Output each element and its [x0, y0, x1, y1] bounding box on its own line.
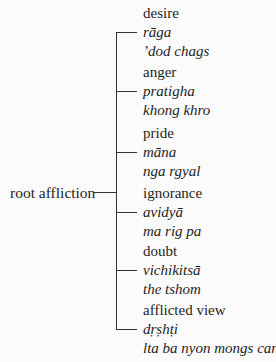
english-term: afflicted view [143, 301, 276, 320]
sanskrit-term: māna [143, 143, 200, 162]
english-term: anger [143, 63, 210, 82]
branch-connector-desire [116, 32, 137, 33]
tibetan-term: the tshom [143, 280, 201, 299]
branch-connector-pride [116, 152, 137, 153]
sanskrit-term: vichikitsā [143, 261, 201, 280]
tibetan-term: nga rgyal [143, 162, 200, 181]
branch-afflicted-view: afflicted view dṛṣhṭi lta ba nyon mongs … [143, 301, 276, 358]
english-term: pride [143, 124, 200, 143]
sanskrit-term: dṛṣhṭi [143, 320, 276, 339]
english-term: ignorance [143, 184, 202, 203]
sanskrit-term: avidyā [143, 203, 202, 222]
branch-doubt: doubt vichikitsā the tshom [143, 242, 201, 299]
tibetan-term: ’dod chags [143, 42, 209, 61]
branch-ignorance: ignorance avidyā ma rig pa [143, 184, 202, 241]
tibetan-term: ma rig pa [143, 222, 202, 241]
branch-connector-ignorance [116, 212, 137, 213]
branch-pride: pride māna nga rgyal [143, 124, 200, 181]
trunk-line [116, 32, 117, 330]
root-connector [93, 192, 117, 193]
tibetan-term: khong khro [143, 101, 210, 120]
branch-anger: anger pratigha khong khro [143, 63, 210, 120]
tibetan-term: lta ba nyon mongs can [143, 339, 276, 358]
sanskrit-term: pratigha [143, 82, 210, 101]
branch-desire: desire rāga ’dod chags [143, 4, 209, 61]
english-term: desire [143, 4, 209, 23]
branch-connector-doubt [116, 270, 137, 271]
sanskrit-term: rāga [143, 23, 209, 42]
branch-connector-afflicted-view [116, 329, 137, 330]
branch-connector-anger [116, 91, 137, 92]
english-term: doubt [143, 242, 201, 261]
root-node-label: root affliction [10, 183, 95, 202]
